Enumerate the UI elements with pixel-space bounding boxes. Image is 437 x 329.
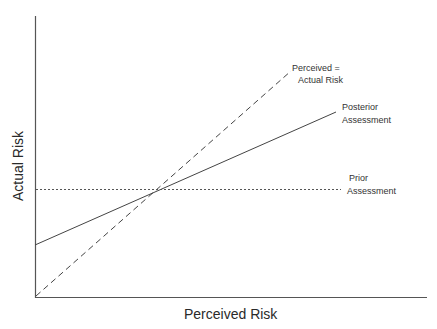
x-axis-title: Perceived Risk [184, 306, 277, 322]
y-axis-title: Actual Risk [10, 125, 26, 207]
equality-label-line1: Perceived = [292, 62, 340, 74]
equality-label-line2: Actual Risk [298, 74, 343, 86]
equality-line [36, 71, 291, 296]
prior-label-line1: Prior [349, 172, 368, 184]
posterior-label-line1: Posterior [342, 101, 378, 113]
risk-diagram [0, 0, 437, 329]
prior-label-line2: Assessment [347, 185, 396, 197]
posterior-line [35, 112, 336, 245]
posterior-label-line2: Assessment [342, 114, 391, 126]
